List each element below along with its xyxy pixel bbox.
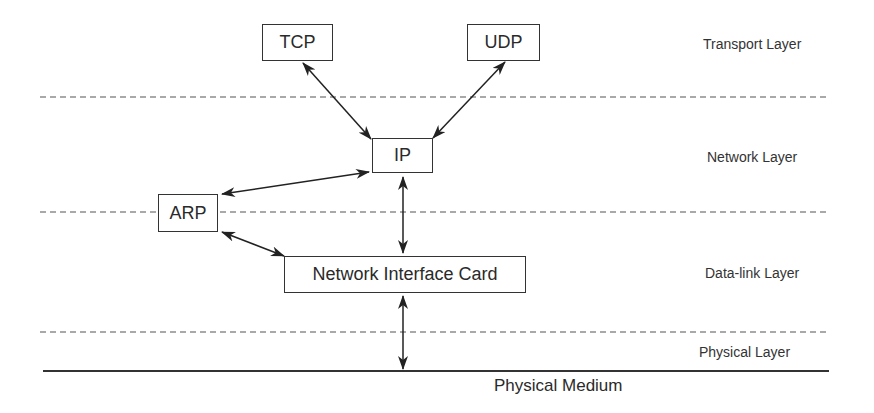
arrow-udp-ip xyxy=(433,62,505,138)
nic-box: Network Interface Card xyxy=(284,256,526,293)
datalink-layer-label: Data-link Layer xyxy=(705,265,799,281)
arrow-ip-arp xyxy=(222,172,369,194)
physical-medium-label: Physical Medium xyxy=(494,376,623,396)
transport-layer-label: Transport Layer xyxy=(703,36,801,52)
ip-box: IP xyxy=(372,138,433,173)
network-layer-label: Network Layer xyxy=(707,149,797,165)
physical-layer-label: Physical Layer xyxy=(699,344,790,360)
tcp-box: TCP xyxy=(262,24,333,61)
arrow-tcp-ip xyxy=(303,63,371,139)
udp-box: UDP xyxy=(467,24,540,61)
arp-box: ARP xyxy=(158,194,218,232)
arrow-arp-nic xyxy=(222,232,284,256)
